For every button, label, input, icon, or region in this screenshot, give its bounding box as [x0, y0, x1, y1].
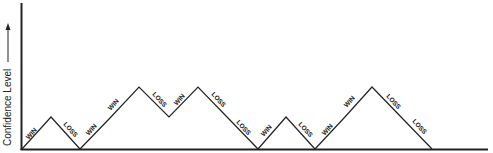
segment-label: WIN — [172, 92, 186, 106]
segment-label: LOSS — [411, 117, 428, 135]
segment-labels: WIN LOSS WIN WIN LOSS WIN LOSS LOSS WIN … — [24, 90, 429, 140]
segment-label: LOSS — [297, 120, 314, 138]
confidence-chart: Confidence Level WIN LOSS WIN WIN LOSS W… — [0, 0, 493, 153]
segment-label: WIN — [320, 122, 334, 136]
segment-label: WIN — [84, 122, 98, 136]
segment-label: LOSS — [210, 90, 227, 108]
segment-label: WIN — [259, 123, 273, 137]
segment-label: LOSS — [151, 90, 168, 108]
confidence-line — [22, 87, 432, 149]
arrow-head-icon — [6, 23, 11, 30]
y-axis-label-group: Confidence Level — [2, 23, 13, 146]
segment-label: LOSS — [385, 92, 402, 110]
y-axis-label: Confidence Level — [2, 69, 13, 146]
segment-label: LOSS — [62, 120, 79, 138]
